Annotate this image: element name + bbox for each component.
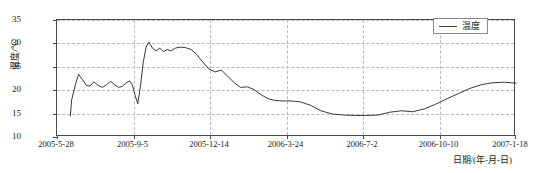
y-tick-label-30: 30	[0, 38, 21, 47]
x-tick-label-2005-5-28: 2005-5-28	[38, 140, 73, 149]
x-tick-label-2006-10-10: 2006-10-10	[419, 140, 459, 149]
y-axis-title: 温度/℃	[8, 25, 21, 85]
chart-root: 温度/℃ 35 30 25 20 15 10	[0, 0, 540, 173]
x-tick-label-2005-9-5: 2005-9-5	[117, 140, 148, 149]
y-tick-label-25: 25	[0, 62, 21, 71]
x-tick-label-2006-7-2: 2006-7-2	[346, 140, 377, 149]
legend-line-icon	[439, 26, 457, 27]
x-tick-label-2005-12-14: 2005-12-14	[189, 140, 229, 149]
x-axis-title: 日期/(年-月-日)	[0, 153, 512, 166]
x-tick-label-2007-1-18: 2007-1-18	[492, 140, 527, 149]
plot-area: 温度	[56, 19, 515, 136]
y-tick-label-20: 20	[0, 85, 21, 94]
y-tick-label-35: 35	[0, 15, 21, 24]
legend: 温度	[433, 18, 488, 34]
y-tick-label-10: 10	[0, 132, 21, 141]
legend-label-temperature: 温度	[462, 21, 480, 31]
series-temperature	[57, 20, 516, 137]
y-tick-label-15: 15	[0, 109, 21, 118]
x-tick-label-2006-3-24: 2006-3-24	[268, 140, 303, 149]
